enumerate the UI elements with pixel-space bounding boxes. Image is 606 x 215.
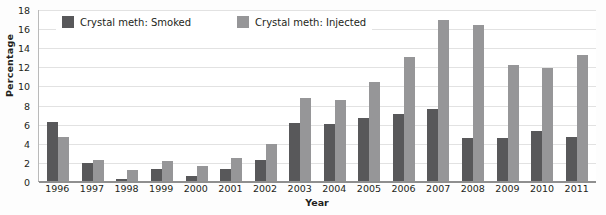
bar-smoked-2008 bbox=[462, 138, 473, 181]
bar-group bbox=[525, 10, 560, 181]
x-axis-tick-label: 2008 bbox=[456, 183, 491, 197]
bar-smoked-2000 bbox=[186, 176, 197, 181]
bar-injected-2011 bbox=[577, 55, 588, 181]
bar-injected-1999 bbox=[162, 161, 173, 181]
x-axis-tick-label: 2000 bbox=[179, 183, 214, 197]
x-axis-title: Year bbox=[38, 197, 596, 208]
bar-smoked-1997 bbox=[82, 163, 93, 181]
y-axis-tick-label: 10 bbox=[18, 81, 30, 92]
bar-smoked-2003 bbox=[289, 123, 300, 181]
bar-group bbox=[490, 10, 525, 181]
x-axis-tick-label: 2004 bbox=[317, 183, 352, 197]
legend-item-smoked: Crystal meth: Smoked bbox=[62, 16, 191, 28]
x-axis-tick-labels: 1996199719981999200020012002200320042005… bbox=[38, 183, 596, 197]
y-axis-tick-label: 18 bbox=[18, 5, 30, 16]
bar-group bbox=[110, 10, 145, 181]
bar-smoked-2007 bbox=[427, 109, 438, 181]
bar-injected-2000 bbox=[197, 166, 208, 181]
x-axis-tick-label: 1997 bbox=[75, 183, 110, 197]
bar-injected-1998 bbox=[127, 170, 138, 181]
x-axis-tick-label: 2007 bbox=[421, 183, 456, 197]
bar-injected-2003 bbox=[300, 98, 311, 181]
bar-injected-2008 bbox=[473, 25, 484, 181]
x-axis-tick-label: 2001 bbox=[213, 183, 248, 197]
bar-injected-2010 bbox=[542, 68, 553, 181]
bar-injected-2009 bbox=[508, 65, 519, 181]
legend-swatch-smoked bbox=[62, 16, 74, 28]
bar-group bbox=[421, 10, 456, 181]
bar-smoked-2011 bbox=[566, 137, 577, 181]
y-axis-tick-label: 14 bbox=[18, 43, 30, 54]
bar-smoked-1999 bbox=[151, 169, 162, 181]
y-axis-tick-label: 6 bbox=[24, 119, 30, 130]
bar-smoked-2005 bbox=[358, 118, 369, 181]
bar-smoked-2010 bbox=[531, 131, 542, 181]
bar-group bbox=[41, 10, 76, 181]
legend-label-injected: Crystal meth: Injected bbox=[255, 17, 366, 28]
y-axis-tick-labels: 024681012141618 bbox=[0, 10, 34, 182]
bar-smoked-2004 bbox=[324, 124, 335, 181]
x-axis-tick-label: 1998 bbox=[109, 183, 144, 197]
bar-group bbox=[318, 10, 353, 181]
bar-group bbox=[352, 10, 387, 181]
y-axis-tick-label: 16 bbox=[18, 24, 30, 35]
x-axis-tick-label: 2003 bbox=[282, 183, 317, 197]
x-axis-tick-label: 2009 bbox=[490, 183, 525, 197]
x-axis-tick-label: 2011 bbox=[559, 183, 594, 197]
bar-smoked-1996 bbox=[47, 122, 58, 181]
y-axis-tick-label: 12 bbox=[18, 62, 30, 73]
bar-smoked-2006 bbox=[393, 114, 404, 181]
bar-smoked-2009 bbox=[497, 138, 508, 181]
bar-group bbox=[559, 10, 594, 181]
bar-chart: Percentage 024681012141618 Crystal meth:… bbox=[0, 0, 606, 215]
bar-smoked-2001 bbox=[220, 169, 231, 181]
bar-injected-1997 bbox=[93, 160, 104, 181]
plot-area bbox=[38, 10, 596, 182]
y-axis-tick-label: 4 bbox=[24, 138, 30, 149]
x-axis-tick-label: 2006 bbox=[386, 183, 421, 197]
x-axis-tick-label: 2002 bbox=[248, 183, 283, 197]
bar-smoked-2002 bbox=[255, 160, 266, 181]
x-axis-tick-label: 2010 bbox=[525, 183, 560, 197]
y-axis-tick-label: 0 bbox=[24, 177, 30, 188]
x-axis-tick-label: 1999 bbox=[144, 183, 179, 197]
bar-injected-2005 bbox=[369, 82, 380, 181]
x-axis-tick-label: 1996 bbox=[40, 183, 75, 197]
bar-injected-2004 bbox=[335, 100, 346, 181]
bar-group bbox=[145, 10, 180, 181]
x-axis-tick-label: 2005 bbox=[352, 183, 387, 197]
legend-item-injected: Crystal meth: Injected bbox=[237, 16, 366, 28]
bar-group bbox=[456, 10, 491, 181]
bar-group bbox=[248, 10, 283, 181]
bar-injected-2006 bbox=[404, 57, 415, 181]
bar-group bbox=[214, 10, 249, 181]
y-axis-tick-label: 8 bbox=[24, 100, 30, 111]
bar-group bbox=[283, 10, 318, 181]
y-axis-tick-label: 2 bbox=[24, 157, 30, 168]
bar-injected-2002 bbox=[266, 144, 277, 181]
bar-group bbox=[387, 10, 422, 181]
bar-injected-1996 bbox=[58, 137, 69, 181]
bar-smoked-1998 bbox=[116, 179, 127, 181]
bar-groups bbox=[39, 10, 596, 181]
legend-swatch-injected bbox=[237, 16, 249, 28]
legend-label-smoked: Crystal meth: Smoked bbox=[80, 17, 191, 28]
bar-injected-2007 bbox=[438, 20, 449, 181]
bar-injected-2001 bbox=[231, 158, 242, 181]
bar-group bbox=[179, 10, 214, 181]
chart-legend: Crystal meth: Smoked Crystal meth: Injec… bbox=[56, 14, 372, 30]
bar-group bbox=[76, 10, 111, 181]
